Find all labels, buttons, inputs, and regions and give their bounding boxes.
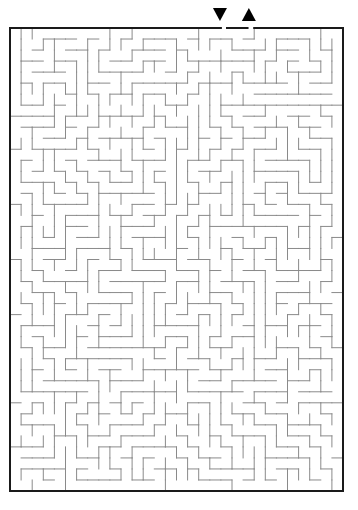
maze-board <box>0 0 358 510</box>
down-triangle-icon[interactable] <box>213 8 227 21</box>
up-triangle-icon[interactable] <box>242 8 256 21</box>
maze-walls <box>10 28 343 491</box>
maze-markers <box>213 8 256 21</box>
